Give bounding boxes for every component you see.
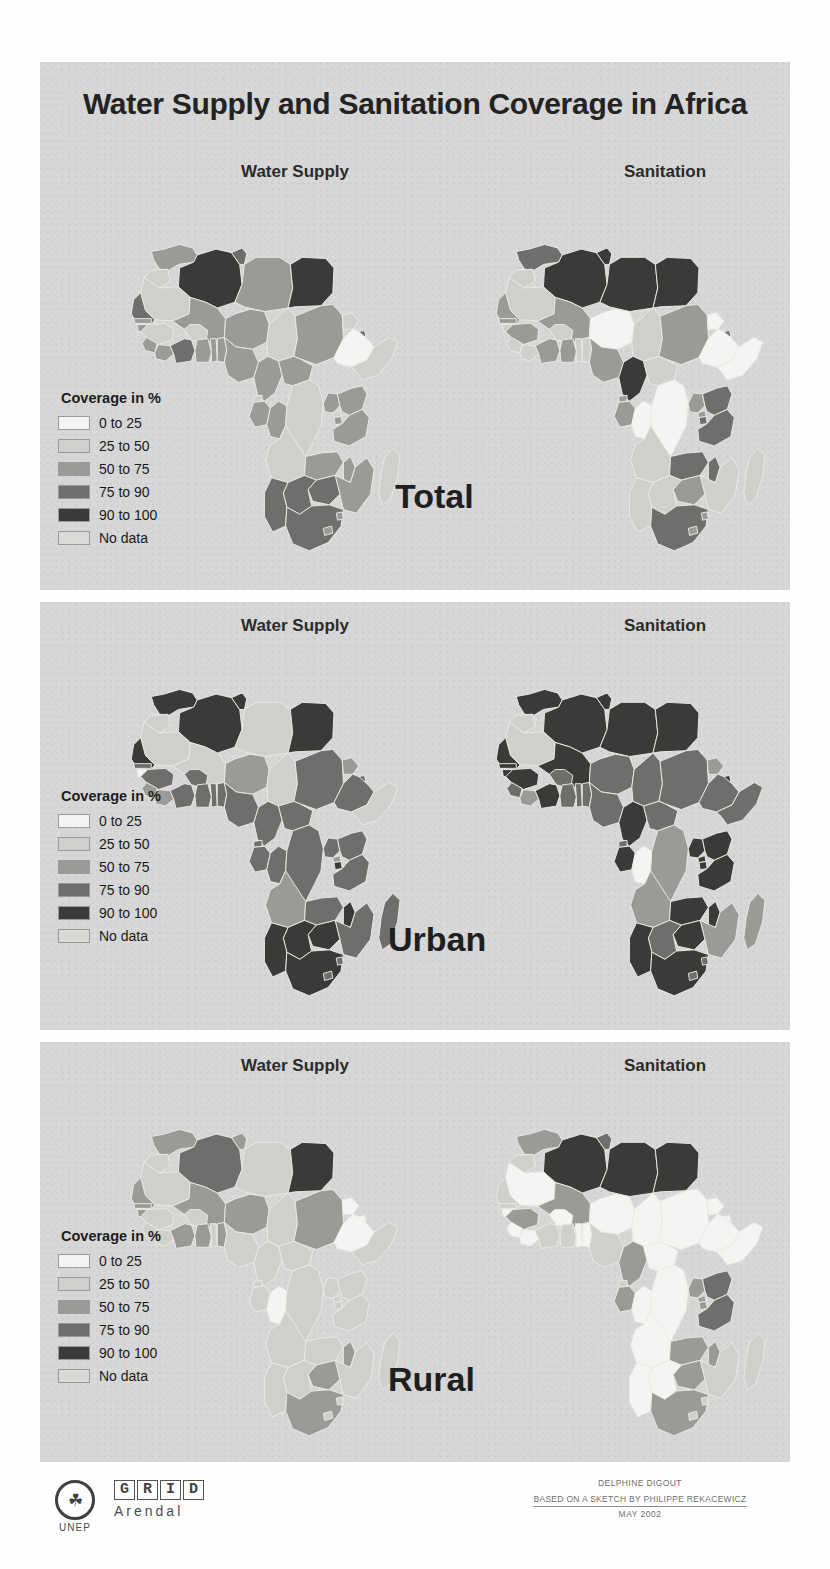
country-mg[interactable] bbox=[744, 1333, 765, 1390]
grid-letter: I bbox=[160, 1480, 181, 1500]
country-ly[interactable] bbox=[600, 702, 658, 756]
country-gh[interactable] bbox=[195, 1224, 212, 1248]
country-bi[interactable] bbox=[699, 416, 707, 424]
country-gm[interactable] bbox=[134, 764, 152, 769]
country-sz[interactable] bbox=[336, 512, 343, 520]
country-ci[interactable] bbox=[535, 784, 560, 809]
country-cm[interactable] bbox=[254, 1241, 282, 1286]
country-gh[interactable] bbox=[560, 339, 577, 363]
country-eg[interactable] bbox=[653, 702, 699, 753]
country-na[interactable] bbox=[264, 1363, 288, 1417]
country-na[interactable] bbox=[629, 478, 653, 532]
country-zm[interactable] bbox=[670, 897, 709, 925]
country-ci[interactable] bbox=[535, 339, 560, 364]
country-sz[interactable] bbox=[701, 512, 708, 520]
country-ly[interactable] bbox=[235, 1142, 293, 1196]
country-ug[interactable] bbox=[323, 1278, 340, 1298]
country-bi[interactable] bbox=[334, 1301, 342, 1309]
country-td[interactable] bbox=[632, 308, 663, 361]
country-eg[interactable] bbox=[288, 257, 334, 308]
country-za[interactable] bbox=[286, 950, 344, 996]
country-sz[interactable] bbox=[701, 957, 708, 965]
country-eg[interactable] bbox=[653, 257, 699, 308]
country-tg[interactable] bbox=[210, 339, 217, 363]
legend-rows: 0 to 2525 to 5050 to 7575 to 9090 to 100… bbox=[58, 1249, 161, 1387]
country-za[interactable] bbox=[651, 505, 709, 551]
country-gm[interactable] bbox=[499, 1204, 517, 1209]
country-er[interactable] bbox=[342, 1198, 359, 1215]
map-urban-sanitation[interactable] bbox=[455, 642, 785, 1022]
country-zm[interactable] bbox=[670, 1337, 709, 1365]
country-gh[interactable] bbox=[560, 784, 577, 808]
country-za[interactable] bbox=[651, 950, 709, 996]
country-eg[interactable] bbox=[288, 702, 334, 753]
country-na[interactable] bbox=[629, 1363, 653, 1417]
country-sz[interactable] bbox=[336, 1397, 343, 1405]
country-sz[interactable] bbox=[701, 1397, 708, 1405]
country-tg[interactable] bbox=[575, 1224, 582, 1248]
country-ly[interactable] bbox=[235, 257, 293, 311]
country-bi[interactable] bbox=[699, 1301, 707, 1309]
country-na[interactable] bbox=[629, 923, 653, 977]
map-total-sanitation[interactable] bbox=[455, 192, 785, 582]
country-td[interactable] bbox=[267, 1193, 298, 1246]
country-gm[interactable] bbox=[134, 1204, 152, 1209]
country-ly[interactable] bbox=[235, 702, 293, 756]
country-er[interactable] bbox=[707, 313, 724, 330]
country-ci[interactable] bbox=[170, 784, 195, 809]
country-ly[interactable] bbox=[600, 1142, 658, 1196]
country-cm[interactable] bbox=[254, 356, 282, 401]
country-bi[interactable] bbox=[334, 861, 342, 869]
country-ug[interactable] bbox=[323, 838, 340, 858]
country-na[interactable] bbox=[264, 923, 288, 977]
country-bi[interactable] bbox=[699, 861, 707, 869]
country-mg[interactable] bbox=[744, 448, 765, 505]
country-tg[interactable] bbox=[210, 1224, 217, 1248]
country-er[interactable] bbox=[342, 313, 359, 330]
country-zm[interactable] bbox=[305, 1337, 344, 1365]
country-cm[interactable] bbox=[619, 1241, 647, 1286]
country-er[interactable] bbox=[342, 758, 359, 775]
country-ly[interactable] bbox=[600, 257, 658, 311]
country-ci[interactable] bbox=[535, 1224, 560, 1249]
country-gm[interactable] bbox=[134, 319, 152, 324]
country-cm[interactable] bbox=[254, 801, 282, 846]
country-gm[interactable] bbox=[499, 319, 517, 324]
country-ug[interactable] bbox=[323, 393, 340, 413]
map-rural-sanitation[interactable] bbox=[455, 1082, 785, 1462]
country-gh[interactable] bbox=[195, 339, 212, 363]
country-sz[interactable] bbox=[336, 957, 343, 965]
country-na[interactable] bbox=[264, 478, 288, 532]
country-zm[interactable] bbox=[305, 452, 344, 480]
country-ug[interactable] bbox=[688, 393, 705, 413]
country-bi[interactable] bbox=[334, 416, 342, 424]
country-gm[interactable] bbox=[499, 764, 517, 769]
country-cm[interactable] bbox=[619, 801, 647, 846]
country-td[interactable] bbox=[632, 753, 663, 806]
country-za[interactable] bbox=[651, 1390, 709, 1436]
country-za[interactable] bbox=[286, 505, 344, 551]
country-eg[interactable] bbox=[288, 1142, 334, 1193]
country-cm[interactable] bbox=[619, 356, 647, 401]
country-ci[interactable] bbox=[170, 339, 195, 364]
country-ci[interactable] bbox=[170, 1224, 195, 1249]
country-zm[interactable] bbox=[670, 452, 709, 480]
country-ug[interactable] bbox=[688, 1278, 705, 1298]
country-tg[interactable] bbox=[575, 784, 582, 808]
country-tg[interactable] bbox=[575, 339, 582, 363]
country-zm[interactable] bbox=[305, 897, 344, 925]
country-ug[interactable] bbox=[688, 838, 705, 858]
legend-item: 0 to 25 bbox=[58, 411, 161, 434]
country-za[interactable] bbox=[286, 1390, 344, 1436]
country-eg[interactable] bbox=[653, 1142, 699, 1193]
country-er[interactable] bbox=[707, 1198, 724, 1215]
country-gh[interactable] bbox=[560, 1224, 577, 1248]
grid-letters: G R I D bbox=[114, 1480, 204, 1500]
country-tg[interactable] bbox=[210, 784, 217, 808]
country-td[interactable] bbox=[632, 1193, 663, 1246]
country-gh[interactable] bbox=[195, 784, 212, 808]
country-td[interactable] bbox=[267, 308, 298, 361]
country-td[interactable] bbox=[267, 753, 298, 806]
country-mg[interactable] bbox=[744, 893, 765, 950]
country-er[interactable] bbox=[707, 758, 724, 775]
